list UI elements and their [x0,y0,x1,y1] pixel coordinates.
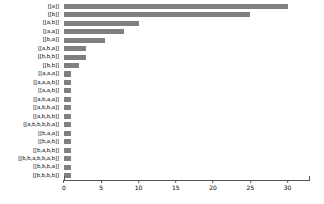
y-axis-label: [[b,a,b]] [0,138,62,146]
y-axis-label: [[a,b,b,b,b,a]] [0,121,62,129]
x-axis-tick: 5 [99,180,103,191]
tick-mark [213,180,214,183]
bar[interactable] [64,122,71,127]
bar[interactable] [64,71,71,76]
bar-row [64,171,310,179]
y-axis-label: [[b,b,a,b,b,a,b]] [0,154,62,162]
bar-row [64,78,310,86]
x-axis-tick: 30 [284,180,292,191]
y-axis-label: [[b,b,b]] [0,53,62,61]
y-axis-label: [[a,a]] [0,27,62,35]
bar-row [64,121,310,129]
bar[interactable] [64,12,250,17]
bar[interactable] [64,29,124,34]
y-axis-label: [[b]] [0,10,62,18]
tick-mark [287,180,288,183]
tick-label: 25 [247,185,255,191]
bar[interactable] [64,165,71,170]
x-axis-tick: 20 [209,180,217,191]
tick-mark [63,180,64,183]
bar[interactable] [64,55,86,60]
bar-row [64,53,310,61]
bar-row [64,10,310,18]
bar[interactable] [64,173,71,178]
plot-area [64,2,310,180]
y-axis-label: [[a]] [0,2,62,10]
bar-row [64,27,310,35]
y-axis-labels: [[a]][[b]][[a,b]][[a,a]][[b,a]][[a,b,a]]… [0,2,62,180]
tick-label: 30 [284,185,292,191]
bar-row [64,129,310,137]
bar[interactable] [64,21,139,26]
tick-label: 0 [62,185,66,191]
tick-label: 15 [172,185,180,191]
y-axis-label: [[a,b,a,a]] [0,95,62,103]
bar-row [64,95,310,103]
bar-row [64,87,310,95]
bar[interactable] [64,4,288,9]
bar-row [64,44,310,52]
bar[interactable] [64,105,71,110]
bar-row [64,2,310,10]
bar-row [64,146,310,154]
x-axis-tick: 0 [62,180,66,191]
bar-row [64,36,310,44]
tick-label: 5 [99,185,103,191]
y-axis-label: [[b,b,b,b]] [0,171,62,179]
bar-row [64,19,310,27]
y-axis-label: [[b,b,b,a]] [0,163,62,171]
horizontal-bar-chart: [[a]][[b]][[a,b]][[a,a]][[b,a]][[a,b,a]]… [0,0,324,204]
bar[interactable] [64,131,71,136]
y-axis-label: [[b,a,a]] [0,129,62,137]
tick-label: 20 [209,185,217,191]
x-axis-ticks: 051015202530 [64,180,310,202]
tick-mark [175,180,176,183]
y-axis-label: [[a,a,a,b]] [0,78,62,86]
x-axis-tick: 10 [135,180,143,191]
y-axis-label: [[a,a,b]] [0,87,62,95]
bar-row [64,70,310,78]
y-axis-label: [[a,b]] [0,19,62,27]
bar[interactable] [64,80,71,85]
bar[interactable] [64,139,71,144]
bar-row [64,138,310,146]
x-axis-tick: 15 [172,180,180,191]
tick-mark [101,180,102,183]
bar[interactable] [64,114,71,119]
y-axis-label: [[a,b,b,a]] [0,104,62,112]
bar[interactable] [64,156,71,161]
y-axis-label: [[a,a,a]] [0,70,62,78]
bar-row [64,61,310,69]
bar[interactable] [64,46,86,51]
bar-row [64,104,310,112]
y-axis-label: [[b,a]] [0,36,62,44]
bar[interactable] [64,63,79,68]
bar[interactable] [64,97,71,102]
y-axis-label: [[a,b,b,b]] [0,112,62,120]
bar-row [64,112,310,120]
bar-rows [64,2,310,180]
tick-mark [138,180,139,183]
bar[interactable] [64,148,71,153]
bar-row [64,154,310,162]
y-axis-label: [[b,a,b,b]] [0,146,62,154]
tick-mark [250,180,251,183]
y-axis-label: [[b,b]] [0,61,62,69]
x-axis-tick: 25 [247,180,255,191]
bar[interactable] [64,88,71,93]
bar-row [64,163,310,171]
bar[interactable] [64,38,105,43]
tick-label: 10 [135,185,143,191]
y-axis-label: [[a,b,a]] [0,44,62,52]
